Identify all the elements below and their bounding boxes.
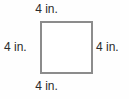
dimension-label-left: 4 in. bbox=[4, 41, 27, 53]
dimension-label-right: 4 in. bbox=[96, 41, 119, 53]
square-shape bbox=[40, 21, 93, 74]
dimension-label-bottom: 4 in. bbox=[0, 80, 93, 92]
geometry-figure: 4 in. 4 in. 4 in. 4 in. bbox=[0, 0, 129, 99]
dimension-label-top: 4 in. bbox=[0, 3, 93, 15]
